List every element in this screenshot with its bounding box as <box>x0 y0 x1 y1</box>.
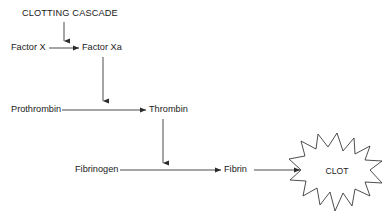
diagram-title: CLOTTING CASCADE <box>22 8 118 18</box>
node-factor-xa: Factor Xa <box>82 42 123 52</box>
node-factor-x: Factor X <box>11 42 46 52</box>
node-clot-label: CLOT <box>326 166 350 176</box>
diagram-canvas: CLOTTING CASCADE Factor X Factor Xa Prot… <box>0 0 388 219</box>
node-thrombin: Thrombin <box>149 104 188 114</box>
clotting-cascade-diagram: CLOTTING CASCADE Factor X Factor Xa Prot… <box>0 0 388 219</box>
node-fibrin: Fibrin <box>224 164 247 174</box>
node-prothrombin: Prothrombin <box>11 104 61 114</box>
node-fibrinogen: Fibrinogen <box>75 164 118 174</box>
